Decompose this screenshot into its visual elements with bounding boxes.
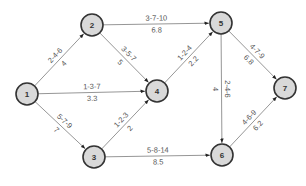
node-4: 4 [146, 80, 168, 102]
node-label: 6 [220, 151, 225, 160]
edge-label-3-4: 1-2-32 [112, 110, 135, 132]
edge-expected-time: 5 [116, 58, 125, 67]
edge-label-2-4: 3-5-75 [116, 44, 139, 66]
edge-label-1-2: 2-4-64 [46, 46, 69, 68]
edge-expected-time: 8.5 [153, 157, 164, 166]
edge-expected-time: 2 [125, 124, 134, 133]
edge-6-7 [230, 97, 277, 147]
node-3: 3 [83, 146, 105, 168]
network-diagram: 2-4-641-3-73.35-7-973-7-106.83-5-751-2-3… [0, 0, 306, 186]
edge-3-4 [102, 100, 149, 149]
node-label: 5 [219, 19, 224, 28]
edge-5-7 [229, 31, 277, 80]
node-label: 2 [90, 21, 95, 30]
node-1: 1 [16, 83, 38, 105]
edge-label-5-7: 4-7-96.8 [242, 42, 267, 67]
edge-expected-time: 6.8 [242, 53, 256, 67]
edge-time-estimates: 3-7-10 [145, 13, 167, 22]
node-label: 7 [283, 84, 288, 93]
edge-label-1-3: 5-7-97 [52, 112, 74, 135]
node-label: 3 [92, 153, 97, 162]
edge-time-estimates: 1-3-7 [83, 82, 101, 91]
node-label: 1 [25, 90, 30, 99]
edge-expected-time: 3.3 [87, 94, 98, 103]
edge-expected-time: 6.8 [151, 25, 162, 34]
node-5: 5 [210, 12, 232, 34]
edge-expected-time: 2.2 [187, 54, 201, 68]
edge-1-2 [35, 34, 84, 86]
edge-expected-time: 4 [211, 87, 220, 91]
edge-5-6 [221, 34, 222, 143]
node-2: 2 [81, 14, 103, 36]
edge-label-4-5: 1-2-42.2 [175, 43, 200, 68]
edge-4-5 [165, 32, 213, 83]
edge-time-estimates: 5-8-14 [147, 145, 169, 154]
node-6: 6 [211, 144, 233, 166]
edge-expected-time: 4 [59, 59, 68, 68]
edge-expected-time: 6.2 [251, 119, 265, 133]
edge-label-6-7: 4-6-96.2 [240, 108, 265, 133]
edge-1-3 [35, 102, 85, 149]
edge-2-4 [100, 33, 149, 83]
edge-time-estimates: 2-4-6 [223, 80, 232, 98]
node-7: 7 [274, 77, 296, 99]
node-label: 4 [155, 87, 160, 96]
edge-expected-time: 7 [52, 125, 61, 134]
